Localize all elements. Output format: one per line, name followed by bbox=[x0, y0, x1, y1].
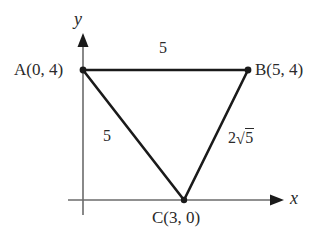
x-axis-label: x bbox=[290, 189, 298, 207]
segment-ac bbox=[83, 70, 184, 200]
radical-sign-icon: √ bbox=[236, 131, 245, 147]
vertex-point-b bbox=[245, 67, 252, 74]
side-label-bc: 2√5 bbox=[228, 128, 254, 146]
vertex-point-a bbox=[80, 67, 87, 74]
side-label-ac: 5 bbox=[103, 128, 111, 144]
x-axis-arrow-icon bbox=[270, 195, 284, 206]
vertex-label-a: A(0, 4) bbox=[14, 61, 63, 78]
y-axis-label: y bbox=[74, 10, 82, 28]
radical-coefficient: 2 bbox=[228, 129, 236, 146]
vertex-point-c bbox=[181, 197, 187, 203]
radicand-value: 5 bbox=[245, 128, 255, 146]
side-label-ab: 5 bbox=[159, 40, 167, 56]
radical-expression: 2√5 bbox=[228, 128, 254, 146]
coordinate-diagram bbox=[0, 0, 324, 238]
vertex-label-b: B(5, 4) bbox=[255, 61, 303, 78]
y-axis-arrow-icon bbox=[78, 33, 89, 47]
vertex-label-c: C(3, 0) bbox=[152, 209, 200, 226]
